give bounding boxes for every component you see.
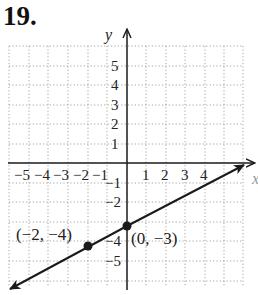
y-tick-3: 3 (111, 97, 119, 113)
x-tick-1: 1 (142, 167, 150, 183)
x-tick-neg3: −3 (53, 167, 69, 183)
y-axis-label: y (103, 26, 113, 44)
point-label-b: (0, −3) (131, 229, 177, 248)
coordinate-graph: y x 5 4 3 2 1 −1 −2 −4 −5 −5 −4 −3 −2 −1… (0, 0, 258, 295)
x-tick-neg5: −5 (14, 167, 30, 183)
y-tick-4: 4 (111, 77, 119, 93)
x-tick-4: 4 (200, 167, 208, 183)
x-axis-label: x (251, 170, 258, 187)
y-tick-neg5: −5 (105, 253, 121, 269)
x-tick-neg1: −1 (92, 167, 108, 183)
y-tick-2: 2 (111, 116, 119, 132)
y-tick-neg2: −2 (105, 194, 121, 210)
y-tick-1: 1 (111, 136, 119, 152)
point-label-a: (−2, −4) (16, 225, 72, 244)
point-neg2-neg4 (84, 242, 93, 251)
x-tick-neg4: −4 (34, 167, 50, 183)
x-tick-2: 2 (161, 167, 169, 183)
x-tick-neg2: −2 (73, 167, 89, 183)
x-tick-3: 3 (181, 167, 189, 183)
y-tick-5: 5 (111, 58, 119, 74)
